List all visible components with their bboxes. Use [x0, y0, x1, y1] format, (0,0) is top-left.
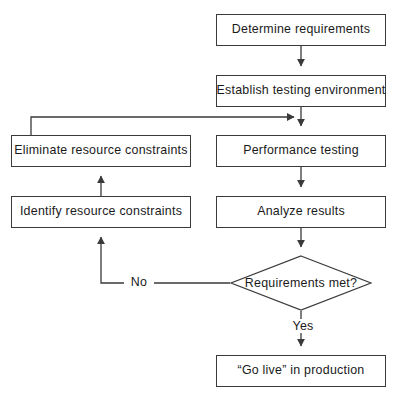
node-identify-resource-constraints-label: Identify resource constraints — [20, 205, 182, 219]
node-analyze-results-label: Analyze results — [257, 205, 345, 219]
node-performance-testing-label: Performance testing — [243, 144, 359, 158]
flowchart-diagram: Determine requirements Establish testing… — [0, 0, 397, 396]
node-analyze-results: Analyze results — [216, 196, 386, 228]
node-determine-requirements-label: Determine requirements — [232, 23, 370, 37]
node-performance-testing: Performance testing — [216, 135, 386, 167]
edge-label-no: No — [124, 275, 154, 289]
node-requirements-met-label: Requirements met? — [245, 276, 357, 290]
node-go-live-in-production-label: “Go live” in production — [238, 364, 365, 378]
connector-eliminate-to-performance — [31, 117, 294, 135]
node-identify-resource-constraints: Identify resource constraints — [11, 196, 191, 228]
node-establish-testing-environment-label: Establish testing environment — [216, 84, 385, 98]
edge-label-yes: Yes — [285, 319, 321, 333]
connector-decision-no-to-identify — [101, 237, 230, 283]
node-eliminate-resource-constraints: Eliminate resource constraints — [11, 135, 191, 167]
node-determine-requirements: Determine requirements — [216, 14, 386, 46]
node-requirements-met-decision: Requirements met? — [230, 255, 372, 311]
node-eliminate-resource-constraints-label: Eliminate resource constraints — [14, 144, 187, 158]
node-go-live-in-production: “Go live” in production — [216, 355, 386, 387]
node-establish-testing-environment: Establish testing environment — [216, 75, 386, 107]
